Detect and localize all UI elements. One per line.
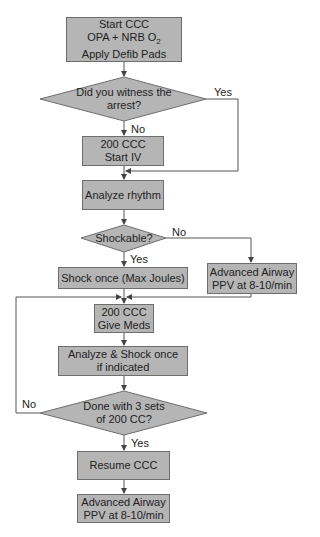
node-200ccc-give-meds: 200 CCC Give Meds: [94, 304, 154, 333]
node-advanced-airway-2: Advanced Airway PPV at 8-10/min: [77, 494, 170, 523]
node-start-ccc: Start CCC OPA + NRB O2 Apply Defib Pads: [66, 17, 182, 62]
node-advanced-airway-1: Advanced Airway PPV at 8-10/min: [207, 263, 297, 294]
node-analyze-rhythm: Analyze rhythm: [82, 180, 164, 210]
edge-label-shockable-yes: Yes: [130, 253, 148, 265]
decision-shockable-label: Shockable?: [84, 232, 164, 245]
decision-done-label: Done with 3 sets of 200 CC?: [70, 399, 178, 427]
edge-label-witness-yes: Yes: [214, 86, 232, 98]
node-start-line-1: Start CCC: [99, 18, 149, 31]
node-start-line-2: OPA + NRB O2: [87, 31, 161, 48]
edge-label-done-no: No: [22, 398, 36, 410]
edge-label-shockable-no: No: [172, 226, 186, 238]
edge-label-witness-no: No: [131, 123, 145, 135]
node-shock-once: Shock once (Max Joules): [58, 267, 188, 289]
node-resume-ccc: Resume CCC: [77, 451, 170, 480]
node-analyze-shock: Analyze & Shock once if indicated: [58, 346, 188, 376]
edge-label-done-yes: Yes: [131, 437, 149, 449]
node-200ccc-start-iv: 200 CCC Start IV: [82, 136, 164, 166]
node-start-line-3: Apply Defib Pads: [82, 48, 166, 61]
decision-witness-label: Did you witness the arrest?: [60, 85, 188, 113]
